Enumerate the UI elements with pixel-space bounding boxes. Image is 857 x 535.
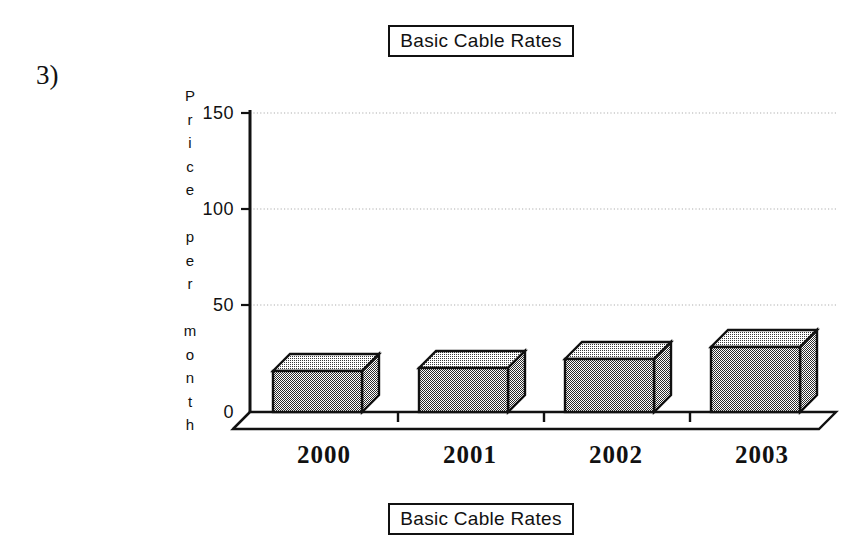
bar-2002[interactable]	[565, 342, 671, 412]
x-tick-label-2000: 2000	[264, 442, 384, 467]
y-axis-label-char: o	[186, 343, 194, 367]
y-axis-label-char: c	[186, 155, 194, 179]
bar-2001-front	[419, 368, 508, 412]
y-axis-label-char: i	[188, 131, 191, 155]
y-tick-label-150: 150	[182, 104, 234, 122]
chart-caption-text: Basic Cable Rates	[400, 508, 561, 530]
y-tick-label-0: 0	[182, 403, 234, 421]
bar-2000[interactable]	[273, 354, 379, 412]
floor-plane	[233, 412, 836, 429]
y-tick-label-50: 50	[182, 296, 234, 314]
bar-2002-front	[565, 359, 654, 412]
gridlines	[250, 113, 836, 305]
y-axis-label-char: n	[186, 366, 194, 390]
bar-2000-front	[273, 371, 362, 412]
bar-2003-front	[711, 347, 800, 412]
bar-2001[interactable]	[419, 351, 525, 412]
y-axis-label-char: m	[184, 319, 197, 343]
chart-floor	[233, 412, 836, 429]
y-axis-label-char: r	[188, 272, 193, 296]
y-axis-label-char: p	[186, 225, 194, 249]
y-axis-label-char: e	[186, 249, 194, 273]
chart-caption-box: Basic Cable Rates	[388, 503, 574, 535]
bar-2003[interactable]	[711, 330, 817, 412]
y-axis	[233, 110, 250, 429]
x-tick-label-2002: 2002	[556, 442, 676, 467]
x-tick-label-2003: 2003	[702, 442, 822, 467]
y-tick-label-100: 100	[182, 200, 234, 218]
y-axis-label-char: e	[186, 178, 194, 202]
y-axis-label: P r i c e p e r m o n t h	[181, 84, 199, 437]
x-tick-label-2001: 2001	[410, 442, 530, 467]
